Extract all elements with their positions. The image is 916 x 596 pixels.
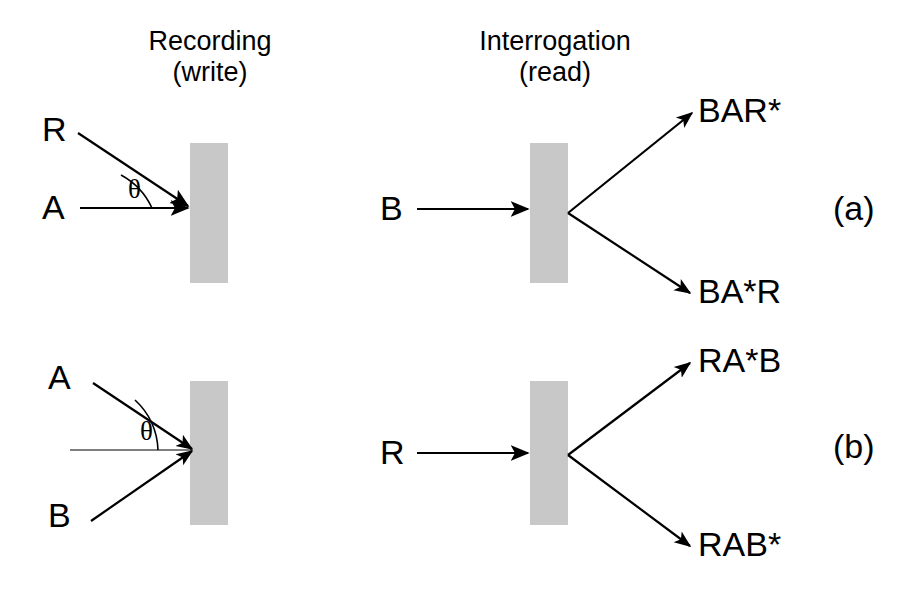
panel-label-a: (a) [833,191,875,225]
panel-b-angle-label-theta: θ [140,418,153,445]
panel-a-beam-label-A: A [42,190,65,224]
panel-b-interrogation-medium [530,381,568,525]
panel-b-output-RAstarB-arrow [568,363,690,455]
panel-b-beam-B-arrow [91,451,192,521]
header-recording-line1: Recording [148,26,271,56]
panel-b-beam-label-A: A [48,360,71,394]
panel-a-recording-medium [190,143,228,283]
panel-b-beam-label-R: R [380,435,405,469]
panel-b-recording-group [70,381,228,525]
panel-a-beam-label-R: R [42,112,67,146]
panel-a-beam-label-B: B [380,191,403,225]
panel-b-output-RABstar-arrow [568,455,690,546]
panel-a-angle-label-theta: θ [128,176,141,203]
panel-a-interrogation-group [417,113,692,293]
panel-b-recording-medium [190,381,228,525]
panel-b-output-label-RAstarB: RA*B [698,343,781,377]
header-recording: Recording (write) [110,26,310,88]
panel-b-interrogation-group [417,363,690,546]
header-interrogation: Interrogation (read) [450,26,660,88]
panel-b-beam-label-B: B [48,498,71,532]
panel-label-b: (b) [833,429,875,463]
panel-a-output-BAstarR-arrow [568,213,690,293]
panel-a-interrogation-medium [530,143,568,283]
panel-a-output-label-BAstarR: BA*R [698,274,781,308]
panel-b-output-label-RABstar: RAB* [698,527,781,561]
panel-a-recording-group [78,133,228,283]
header-interrogation-line1: Interrogation [479,26,631,56]
panel-a-output-BARstar-arrow [568,113,692,213]
header-interrogation-line2: (read) [450,57,660,88]
panel-a-output-label-BARstar: BAR* [698,93,781,127]
header-recording-line2: (write) [110,57,310,88]
figure-root: Recording (write) Interrogation (read) R… [0,0,916,596]
